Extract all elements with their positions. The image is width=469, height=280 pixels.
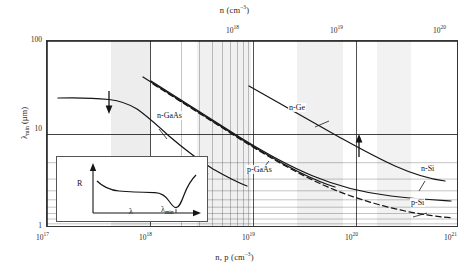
y-tick-10: 10 (16, 124, 42, 133)
bottom-tick-1e18: 1018 (139, 231, 152, 242)
inset-lambda-min-label: λmin (161, 205, 174, 214)
figure-plasma-reflectance-minimum: n (cm–3) 1018 1019 1020 λmin (µm) 100 10… (0, 0, 469, 280)
bottom-tick-1e17: 1017 (36, 231, 49, 242)
bottom-axis-title-text: n, p (cm–3) (215, 252, 254, 262)
inset-y-axis-label: R (77, 179, 82, 188)
curve-label-p-gaas: p-GaAs (246, 165, 273, 174)
curve-label-n-ge: n-Ge (288, 103, 306, 112)
inset-curve-reflectance (97, 175, 196, 208)
top-axis-title: n (cm–3) (0, 4, 469, 15)
plot-area: R λ λmin (46, 40, 458, 227)
annotation-arrow-n-gaas (106, 91, 113, 114)
top-axis-title-text: n (cm–3) (220, 5, 249, 15)
leader-n-si (419, 181, 425, 191)
bottom-axis-title: n, p (cm–3) (0, 251, 469, 262)
bottom-tick-1e19: 1019 (242, 231, 255, 242)
curve-n-ge (249, 86, 445, 181)
annotation-arrow-n-ge (356, 134, 363, 157)
y-tick-100: 100 (16, 35, 42, 44)
curve-label-n-si: n-Si (420, 164, 435, 173)
y-axis-title: λmin (µm) (19, 93, 29, 153)
inset-reflectance-plot: R λ λmin (56, 156, 208, 222)
top-tick-1e18: 1018 (226, 24, 239, 35)
curve-label-n-gaas: n-GaAs (156, 111, 183, 120)
top-tick-1e19: 1019 (330, 24, 343, 35)
y-tick-1: 1 (16, 221, 42, 230)
bottom-tick-1e20: 1020 (345, 231, 358, 242)
top-tick-1e20: 1020 (433, 24, 446, 35)
curve-label-p-si: p-Si (410, 198, 425, 207)
bottom-tick-1e21: 1021 (444, 231, 457, 242)
inset-x-axis-label: λ (129, 207, 133, 216)
